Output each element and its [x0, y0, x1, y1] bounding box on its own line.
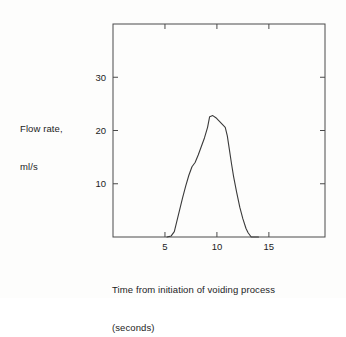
x-axis-title: Time from initiation of voiding process …	[112, 259, 275, 337]
axis-tick-labels: 51015102030	[95, 72, 274, 252]
x-tick-label: 10	[212, 241, 223, 252]
y-tick-label: 30	[95, 72, 106, 83]
y-tick-label: 20	[95, 125, 106, 136]
x-tick-label: 5	[162, 241, 167, 252]
plot-frame	[113, 24, 325, 237]
x-axis-title-line-1: Time from initiation of voiding process	[112, 284, 275, 297]
flow-rate-curve	[167, 116, 258, 237]
y-tick-label: 10	[95, 178, 106, 189]
axis-ticks	[113, 24, 325, 237]
y-axis-title-line-2: ml/s	[20, 161, 63, 174]
y-axis-title: Flow rate, ml/s	[20, 98, 63, 198]
y-axis-title-line-1: Flow rate,	[20, 123, 63, 136]
x-tick-label: 15	[264, 241, 275, 252]
x-axis-title-line-2: (seconds)	[112, 322, 275, 335]
